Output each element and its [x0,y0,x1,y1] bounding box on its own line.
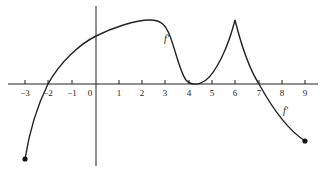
x-ticks [25,80,305,84]
tick-label: −3 [20,88,30,98]
tick-label: 0 [88,88,93,98]
tick-label: 8 [280,88,285,98]
tick-label: 9 [303,88,308,98]
tick-label: 5 [210,88,215,98]
left-endpoint-dot [22,156,27,161]
derivative-graph: −3 −2 −1 0 1 2 3 4 5 6 7 8 9 f′ f′ [0,0,323,171]
tick-label: 7 [257,88,262,98]
tick-label: 6 [233,88,238,98]
tick-label: 4 [187,88,192,98]
tick-label: 2 [140,88,145,98]
tick-label: −1 [67,88,77,98]
curve-label-lower: f′ [283,105,289,116]
tick-label: 1 [117,88,122,98]
right-endpoint-dot [302,138,307,143]
curve-label-upper: f′ [164,33,170,44]
tick-label: 3 [163,88,168,98]
